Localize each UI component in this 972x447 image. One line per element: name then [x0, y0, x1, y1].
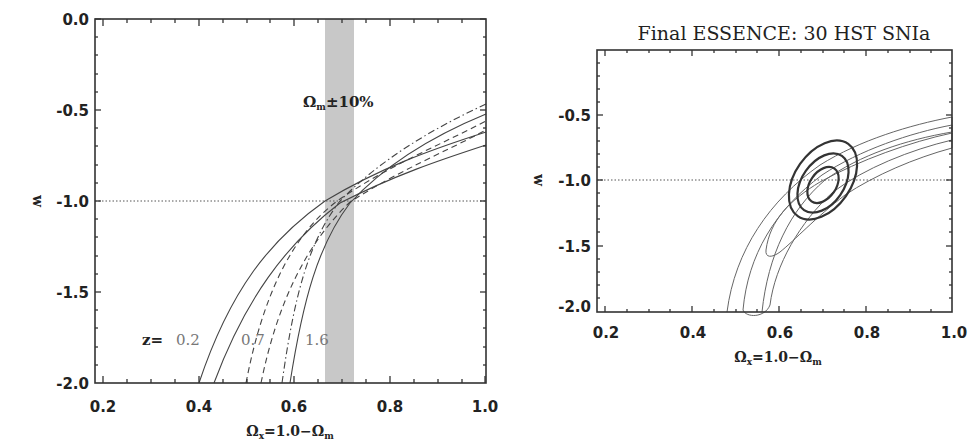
left-x-tick-label: 0.4: [186, 398, 213, 416]
curve-z07-a: [246, 121, 486, 383]
left-y-axis-title: w: [30, 194, 46, 208]
contour-sn-outer: [727, 117, 952, 312]
left-y-tick-label: -2.0: [56, 375, 89, 393]
left-frame: [95, 19, 486, 383]
curve-z07-b: [261, 130, 486, 383]
band-label: Ωm±10%: [303, 93, 374, 112]
left-y-tick-label: -1.0: [56, 193, 89, 211]
left-y-tick-label: -0.5: [56, 102, 89, 120]
sn-contours: [727, 117, 952, 315]
left-y-tick-label: -1.5: [56, 284, 89, 302]
right-x-tick-label: 0.4: [680, 324, 707, 342]
z-label-0.7: 0.7: [241, 331, 265, 349]
right-x-tick-label: 0.8: [854, 324, 881, 342]
right-y-axis-title: w: [531, 173, 547, 187]
left-x-tick-label: 1.0: [472, 398, 499, 416]
right-frame: [597, 50, 952, 312]
right-x-axis-title: Ωx=1.0−Ωm: [734, 349, 822, 367]
left-x-axis-title: Ωx=1.0−Ωm: [246, 423, 334, 441]
z-label-0.2: 0.2: [176, 331, 200, 349]
right-chart-title: Final ESSENCE: 30 HST SNIa: [638, 22, 931, 44]
figure: 0.0 -0.5 -1.0 -1.5 -2.0 0.2 0.4 0.6 0.8 …: [0, 0, 972, 447]
right-x-tick-label: 1.0: [941, 324, 968, 342]
left-x-tick-label: 0.8: [377, 398, 404, 416]
contour-sn-mid: [743, 125, 952, 315]
left-y-tick-label: 0.0: [62, 11, 89, 29]
z-label-1.6: 1.6: [305, 331, 329, 349]
contour-sn-inner: [766, 133, 952, 256]
z-prefix-label: z=: [142, 331, 163, 349]
right-y-tick-label: -0.5: [558, 107, 591, 125]
right-x-ticks: [605, 50, 931, 312]
right-y-tick-label: -1.0: [558, 172, 591, 190]
right-panel: Final ESSENCE: 30 HST SNIa: [531, 22, 967, 367]
right-y-tick-label: -1.5: [558, 238, 591, 256]
left-x-tick-label: 0.2: [90, 398, 117, 416]
right-y-tick-label: -2.0: [558, 298, 591, 316]
right-x-tick-label: 0.2: [593, 324, 620, 342]
right-x-tick-label: 0.6: [767, 324, 794, 342]
left-panel: 0.0 -0.5 -1.0 -1.5 -2.0 0.2 0.4 0.6 0.8 …: [30, 11, 498, 441]
left-x-tick-label: 0.6: [281, 398, 308, 416]
left-y-ticks: [95, 19, 486, 365]
